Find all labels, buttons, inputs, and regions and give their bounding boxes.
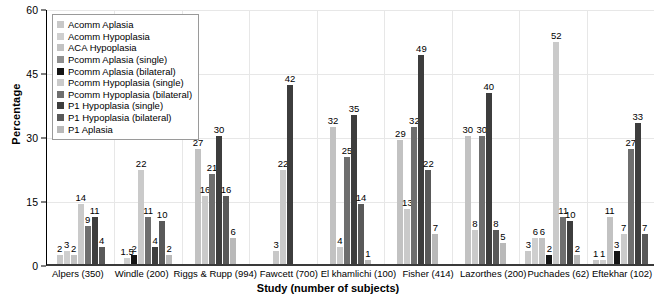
bar-slot: 6 — [230, 10, 236, 264]
bar-slot: 2 — [546, 10, 552, 264]
bar[interactable]: 13 — [404, 209, 410, 264]
legend-item[interactable]: Pcomm Aplasia (single) — [57, 54, 192, 66]
legend-swatch-icon — [57, 126, 64, 133]
bar-slot: 49 — [418, 10, 424, 264]
x-axis-tick-label: Fawcett (700) — [257, 268, 321, 279]
bar-slot: 21 — [209, 10, 215, 264]
bar[interactable]: 8 — [472, 230, 478, 264]
bar[interactable]: 30 — [465, 136, 471, 264]
bar-slot: 6 — [532, 10, 538, 264]
bar[interactable]: 30 — [479, 136, 485, 264]
bar-slot: 5 — [500, 10, 506, 264]
bar[interactable]: 11 — [145, 217, 151, 264]
bar[interactable]: 22 — [138, 170, 144, 264]
bar[interactable]: 52 — [553, 42, 559, 264]
bar[interactable]: 6 — [230, 238, 236, 264]
bar[interactable]: 11 — [92, 217, 98, 264]
bar[interactable]: 11 — [607, 217, 613, 264]
legend-item-label: Pcomm Aplasia (bilateral) — [68, 66, 176, 77]
bar-slot: 1 — [600, 10, 606, 264]
legend-item[interactable]: P1 Aplasia — [57, 123, 192, 135]
bar[interactable]: 27 — [195, 149, 201, 264]
bar[interactable]: 2 — [166, 255, 172, 264]
bar[interactable]: 11 — [560, 217, 566, 264]
bar[interactable]: 14 — [78, 204, 84, 264]
legend-item[interactable]: Acomm Hypoplasia — [57, 31, 192, 43]
y-axis-tick-label: 0 — [32, 260, 38, 272]
bar[interactable]: 2 — [574, 255, 580, 264]
legend-swatch-icon — [57, 21, 64, 28]
bar[interactable]: 30 — [216, 136, 222, 264]
bar[interactable]: 8 — [493, 230, 499, 264]
bar[interactable]: 10 — [159, 221, 165, 264]
bar[interactable]: 7 — [642, 234, 648, 264]
bar[interactable]: 10 — [567, 221, 573, 264]
bar[interactable]: 16 — [202, 196, 208, 264]
bar[interactable]: 22 — [425, 170, 431, 264]
legend-item[interactable]: Pcomm Hypoplasia (single) — [57, 77, 192, 89]
bar[interactable]: 4 — [152, 247, 158, 264]
x-axis-tick-label: Fisher (414) — [396, 268, 460, 279]
bar[interactable]: 2 — [57, 255, 63, 264]
legend-item-label: Acomm Hypoplasia — [68, 31, 150, 42]
legend-item[interactable]: Acomm Aplasia — [57, 19, 192, 31]
bar-slot: 8 — [472, 10, 478, 264]
bar[interactable]: 32 — [330, 127, 336, 264]
bar[interactable]: 7 — [621, 234, 627, 264]
bar[interactable]: 9 — [85, 226, 91, 264]
bar[interactable]: 6 — [532, 238, 538, 264]
bar[interactable]: 4 — [99, 247, 105, 264]
bar-slot: 33 — [635, 10, 641, 264]
bar[interactable]: 35 — [351, 115, 357, 264]
bar[interactable]: 32 — [411, 127, 417, 264]
bar[interactable]: 3 — [614, 251, 620, 264]
bar[interactable]: 1 — [365, 260, 371, 264]
x-axis-tick-label: Puchades (62) — [526, 268, 590, 279]
bar[interactable]: 40 — [486, 93, 492, 264]
bar[interactable]: 2 — [131, 255, 137, 264]
legend-item-label: Pcomm Hypoplasia (bilateral) — [68, 89, 192, 100]
bar[interactable]: 22 — [280, 170, 286, 264]
bar[interactable]: 3 — [64, 251, 70, 264]
bar[interactable]: 3 — [273, 251, 279, 264]
bar[interactable]: 7 — [432, 234, 438, 264]
bar[interactable]: 16 — [223, 196, 229, 264]
bar[interactable]: 3 — [525, 251, 531, 264]
bar-value-label: 42 — [285, 74, 296, 84]
bar-value-label: 2 — [575, 244, 580, 254]
bar[interactable]: 27 — [628, 149, 634, 264]
legend-item[interactable]: P1 Hypoplasia (bilateral) — [57, 112, 192, 124]
legend-item[interactable]: Pcomm Hypoplasia (bilateral) — [57, 89, 192, 101]
bar[interactable]: 6 — [539, 238, 545, 264]
bar-group: 308304085 — [452, 10, 519, 264]
bar-value-label: 2 — [57, 244, 62, 254]
bar-value-label: 5 — [500, 232, 505, 242]
legend-item[interactable]: P1 Hypoplasia (single) — [57, 100, 192, 112]
bar[interactable]: 14 — [358, 204, 364, 264]
bar[interactable]: 1 — [593, 260, 599, 264]
x-axis-tick-label: Eftekhar (102) — [590, 268, 654, 279]
bar-slot: 7 — [642, 10, 648, 264]
legend-swatch-icon — [57, 68, 64, 75]
bar[interactable]: 1 — [600, 260, 606, 264]
bar-slot: 6 — [539, 10, 545, 264]
bar[interactable]: 42 — [287, 85, 293, 264]
bar-slot: 3 — [525, 10, 531, 264]
x-axis-tick-label: Alpers (350) — [46, 268, 110, 279]
legend-item[interactable]: Pcomm Aplasia (bilateral) — [57, 65, 192, 77]
bar[interactable]: 1.5 — [124, 258, 130, 264]
bar-value-label: 8 — [472, 219, 477, 229]
bar[interactable]: 21 — [209, 174, 215, 264]
bar-slot: 22 — [280, 10, 286, 264]
x-axis-label: Study (number of subjects) — [0, 282, 656, 294]
bar[interactable]: 4 — [337, 247, 343, 264]
bar[interactable]: 2 — [546, 255, 552, 264]
bar-group: 11113727337 — [587, 10, 654, 264]
legend-item[interactable]: ACA Hypoplasia — [57, 42, 192, 54]
bar[interactable]: 5 — [500, 243, 506, 264]
bar-slot: 4 — [337, 10, 343, 264]
legend-swatch-icon — [57, 44, 64, 51]
bar[interactable]: 33 — [635, 123, 641, 264]
bar[interactable]: 25 — [344, 157, 350, 264]
bar[interactable]: 2 — [71, 255, 77, 264]
